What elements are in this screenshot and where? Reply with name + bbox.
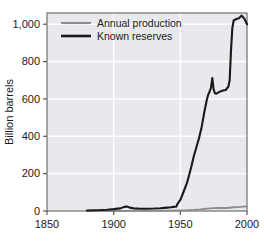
x-tick-label-1850: 1850 xyxy=(35,218,59,230)
y-tick-label-400: 400 xyxy=(22,130,40,142)
y-tick-label-600: 600 xyxy=(22,93,40,105)
y-tick-label-200: 200 xyxy=(22,167,40,179)
x-tick-label-1950: 1950 xyxy=(168,218,192,230)
y-axis-title: Billion barrels xyxy=(3,78,15,145)
x-tick-label-1900: 1900 xyxy=(101,218,125,230)
y-tick-label-0: 0 xyxy=(34,205,40,217)
legend-label-known-reserves: Known reserves xyxy=(97,30,172,42)
y-tick-label-800: 800 xyxy=(22,55,40,67)
plot-background xyxy=(47,13,247,211)
reserves-production-line-chart: 02004006008001,000 1850190019502000 Bill… xyxy=(0,0,264,250)
chart-figure: 02004006008001,000 1850190019502000 Bill… xyxy=(0,0,264,250)
x-axis: 1850190019502000 xyxy=(35,211,259,230)
y-axis: 02004006008001,000 xyxy=(12,18,47,217)
y-tick-label-1000: 1,000 xyxy=(12,18,40,30)
x-tick-label-2000: 2000 xyxy=(235,218,259,230)
legend-label-annual-production: Annual production xyxy=(97,17,182,29)
